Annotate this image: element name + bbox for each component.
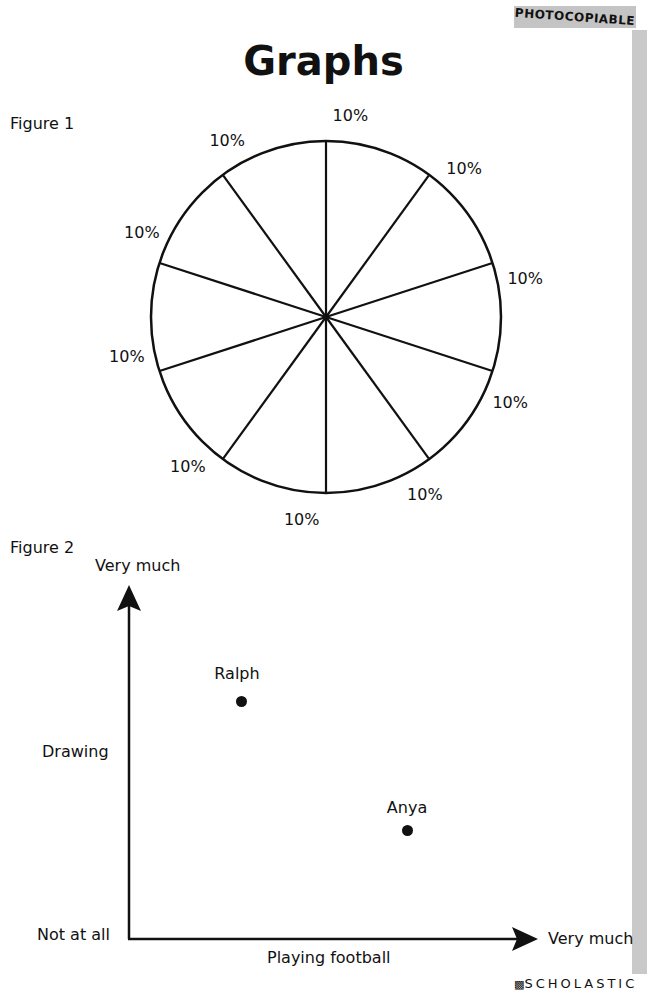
- point-label-ralph: Ralph: [214, 664, 259, 683]
- publisher-name: SCHOLASTIC: [524, 976, 637, 991]
- data-point-anya: [402, 825, 413, 836]
- data-point-ralph: [236, 696, 247, 707]
- book-icon: ▩: [514, 978, 524, 991]
- publisher-logo: ▩SCHOLASTIC: [514, 976, 637, 991]
- figure-2-scatter-axes: [0, 0, 647, 995]
- point-label-anya: Anya: [387, 798, 427, 817]
